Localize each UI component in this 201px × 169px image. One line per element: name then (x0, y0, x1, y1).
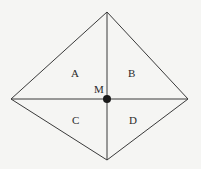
center-label-m: M (94, 83, 104, 95)
region-label-d: D (129, 114, 137, 126)
center-point-dot (103, 95, 111, 103)
region-label-a: A (71, 67, 79, 79)
diagram-canvas: A B M C D (0, 0, 201, 169)
region-label-c: C (72, 114, 79, 126)
rhombus-diagram: A B M C D (0, 0, 201, 169)
region-label-b: B (128, 67, 135, 79)
